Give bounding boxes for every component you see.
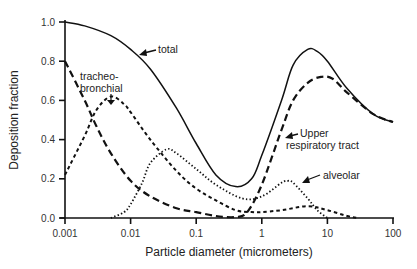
x-tick-label: 0.01 <box>121 228 141 239</box>
svg-text:total: total <box>158 43 178 55</box>
y-ticks: 0.00.20.40.60.81.0 <box>41 17 65 224</box>
y-tick-label: 0.8 <box>41 56 55 67</box>
annotation-total: total <box>139 43 178 56</box>
series-lines <box>65 22 393 218</box>
arrow-icon <box>139 49 147 56</box>
series-tracheo-bronchial <box>65 96 359 218</box>
deposition-chart: 0.00.20.40.60.81.0 0.0010.010.1110100 De… <box>0 0 417 269</box>
arrow-icon <box>285 132 293 139</box>
svg-text:tracheo-: tracheo- <box>80 70 119 82</box>
y-tick-label: 0.6 <box>41 95 55 106</box>
svg-text:alveolar: alveolar <box>323 169 360 181</box>
svg-text:bronchial: bronchial <box>80 82 123 94</box>
x-ticks: 0.0010.010.1110100 <box>52 218 401 239</box>
svg-text:respiratory tract: respiratory tract <box>286 139 359 151</box>
y-tick-label: 0.0 <box>41 213 55 224</box>
x-tick-label: 10 <box>322 228 334 239</box>
x-axis-title: Particle diameter (micrometers) <box>145 245 312 259</box>
annotation-tracheobronchial: tracheo- bronchial <box>80 70 123 105</box>
x-tick-label: 100 <box>385 228 402 239</box>
svg-text:Upper: Upper <box>300 127 329 139</box>
arrow-icon <box>302 176 310 183</box>
y-tick-label: 1.0 <box>41 17 55 28</box>
arrow-icon <box>107 100 115 105</box>
x-tick-label: 0.001 <box>52 228 77 239</box>
y-tick-label: 0.4 <box>41 134 55 145</box>
annotation-upper-respiratory: Upper respiratory tract <box>285 127 359 151</box>
annotation-alveolar: alveolar <box>302 169 360 183</box>
x-tick-label: 1 <box>259 228 265 239</box>
series-alveolar <box>111 149 328 218</box>
series-total <box>65 22 393 187</box>
y-axis-title: Deposition fraction <box>7 70 21 169</box>
y-tick-label: 0.2 <box>41 173 55 184</box>
x-tick-label: 0.1 <box>189 228 203 239</box>
